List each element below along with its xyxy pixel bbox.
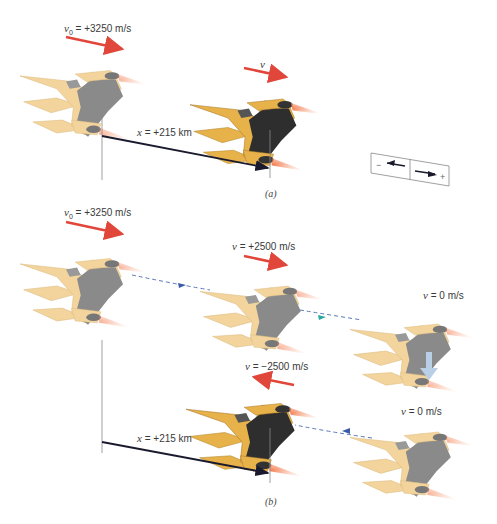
label-final-velocity-a: v [260,58,265,70]
velocity-arrow-state-5 [254,377,294,385]
caption-b: (b) [265,496,277,507]
ship-state-1 [20,258,149,328]
path-4-to-5 [295,425,372,438]
panel-a [20,37,449,186]
label-velocity-state-4: v = 0 m/s [401,405,442,417]
ship-final-a [190,99,323,171]
velocity-arrow-initial-a [66,37,122,49]
label-displacement-a: x = +215 km [137,126,192,138]
caption-a: (a) [265,188,277,199]
path-1-to-2 [132,275,210,290]
ship-state-3 [350,324,476,392]
label-initial-velocity-a: v0 = +3250 m/s [64,22,131,36]
ship-initial-a [20,70,149,140]
label-velocity-state-5: v = −2500 m/s [245,360,308,372]
legend-minus: − [376,160,381,170]
label-velocity-state-2: v = +2500 m/s [232,240,295,252]
velocity-arrow-state-2 [244,256,286,265]
legend-plus: + [440,172,445,182]
displacement-arrow-a [102,136,268,168]
velocity-arrow-final-a [244,68,286,77]
label-velocity-state-3: v = 0 m/s [423,289,464,301]
label-displacement-b: x = +215 km [137,432,192,444]
ship-state-5 [186,403,322,477]
ship-state-2 [200,286,326,354]
path-2-to-3 [300,310,362,320]
label-initial-velocity-b: v0 = +3250 m/s [64,206,131,220]
direction-legend [371,153,449,186]
ship-state-4 [350,432,476,500]
velocity-arrow-initial-b [66,222,122,234]
